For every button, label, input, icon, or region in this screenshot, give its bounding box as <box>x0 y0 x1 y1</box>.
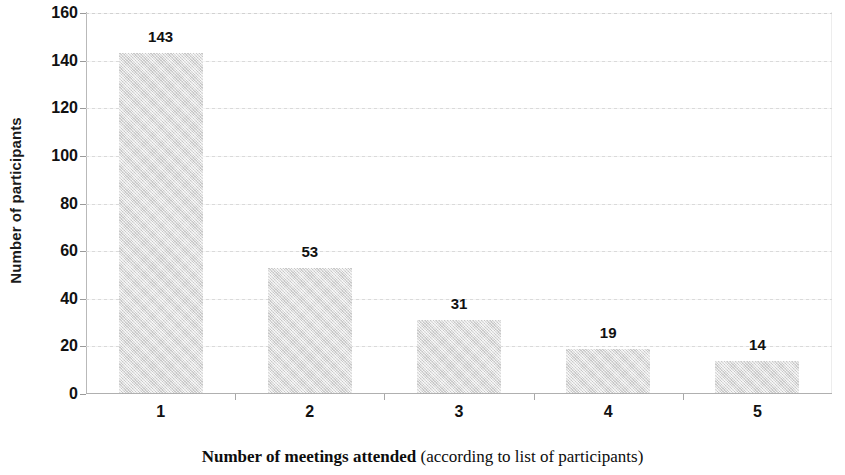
bar-group: 19 <box>534 13 683 394</box>
x-axis-tick-mark <box>384 394 385 400</box>
x-axis-title-bold: Number of meetings attended <box>202 447 417 466</box>
x-axis-tick-label: 1 <box>156 404 165 420</box>
plot-area: 14353311914 <box>86 13 832 394</box>
chart-canvas: Number of participants 02040608010012014… <box>0 0 845 475</box>
bar <box>268 268 352 394</box>
y-axis-tick-label: 80 <box>26 196 78 212</box>
bar-group: 31 <box>384 13 533 394</box>
x-axis-tick-label: 2 <box>305 404 314 420</box>
y-axis-tick-label: 20 <box>26 338 78 354</box>
y-axis-tick-label: 100 <box>26 148 78 164</box>
bar-value-label: 31 <box>451 296 468 311</box>
x-axis-line <box>86 393 832 394</box>
bar-value-label: 19 <box>600 325 617 340</box>
x-axis-title: Number of meetings attended (according t… <box>0 448 845 467</box>
bar-group: 53 <box>235 13 384 394</box>
y-axis-title-text: Number of participants <box>7 117 24 283</box>
y-axis-tick-label: 0 <box>26 386 78 402</box>
x-axis-tick-label: 5 <box>753 404 762 420</box>
bar <box>417 320 501 394</box>
bar <box>715 361 799 394</box>
bar-group: 14 <box>683 13 832 394</box>
x-axis-tick-label: 3 <box>455 404 464 420</box>
bar-value-label: 53 <box>301 244 318 259</box>
bar-group: 143 <box>86 13 235 394</box>
y-axis-tick-label: 140 <box>26 53 78 69</box>
y-axis-tick-label: 40 <box>26 291 78 307</box>
x-axis-tick-labels: 12345 <box>86 404 832 430</box>
x-axis-tick-mark <box>534 394 535 400</box>
x-axis-tick-mark <box>683 394 684 400</box>
x-axis-title-normal: (according to list of participants) <box>416 447 643 466</box>
y-axis-tick-label: 120 <box>26 100 78 116</box>
bar-value-label: 143 <box>148 29 173 44</box>
y-axis-tick-label: 160 <box>26 5 78 21</box>
bar-value-label: 14 <box>749 337 766 352</box>
y-axis-tick-mark <box>80 394 86 395</box>
bar <box>566 349 650 394</box>
x-axis-tick-mark <box>235 394 236 400</box>
y-axis-tick-label: 60 <box>26 243 78 259</box>
y-axis-tick-labels: 020406080100120140160 <box>26 0 78 400</box>
x-axis-tick-label: 4 <box>604 404 613 420</box>
bar <box>119 53 203 394</box>
